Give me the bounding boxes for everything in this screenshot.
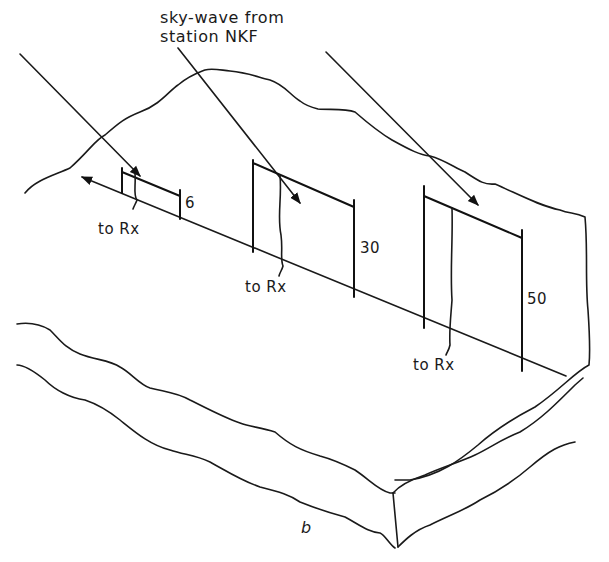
antenna-3 (424, 186, 522, 371)
skywave-arrow-2 (178, 48, 300, 203)
slab-right-lower (398, 442, 575, 547)
slab-bottom-edge (17, 365, 395, 548)
antenna-2 (253, 160, 354, 297)
panel-label: b (301, 518, 311, 537)
skywave-source-label: sky-wave from station NKF (160, 8, 284, 46)
diagram-drawing (0, 0, 609, 562)
terrain-outline (25, 69, 590, 480)
antenna-2-feed-label: to Rx (245, 280, 287, 295)
title-line-1: sky-wave from (160, 8, 284, 27)
antenna-3-feed-label: to Rx (413, 358, 455, 373)
antenna-3-height: 50 (527, 292, 547, 307)
antenna-2-height: 30 (360, 241, 380, 256)
title-line-2: station NKF (160, 27, 284, 46)
slab-right-upper (393, 378, 583, 493)
slab-corner-vertical (393, 493, 398, 547)
baseline-to-rx-arrow (82, 177, 566, 376)
slab-top-edge (17, 323, 395, 493)
skywave-arrow-3 (326, 52, 478, 205)
antenna-1-height: 6 (185, 196, 195, 211)
antenna-1-feed-label: to Rx (98, 222, 140, 237)
antenna-1 (122, 168, 180, 219)
